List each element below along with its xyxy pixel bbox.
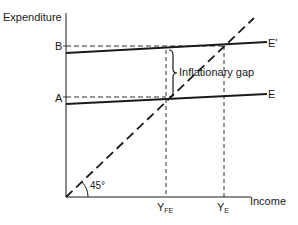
tick-label-a: A bbox=[55, 92, 62, 104]
tick-label-ye: YE bbox=[217, 201, 229, 217]
line-label-e-prime: E' bbox=[268, 37, 277, 49]
tick-label-yfe-sub: FE bbox=[164, 207, 173, 214]
line-label-e: E bbox=[268, 88, 275, 100]
angle-label: 45° bbox=[90, 180, 105, 192]
e-line bbox=[66, 94, 267, 104]
gap-brace-icon bbox=[169, 50, 177, 97]
tick-label-ye-sub: E bbox=[224, 207, 229, 214]
x-axis-label: Income bbox=[250, 195, 286, 207]
diagram-canvas bbox=[0, 0, 298, 225]
tick-label-b: B bbox=[55, 40, 62, 52]
e-prime-line bbox=[66, 42, 267, 53]
tick-label-yfe: YFE bbox=[157, 201, 173, 217]
angle-arc-icon bbox=[82, 182, 88, 197]
y-axis-label: Expenditure bbox=[3, 11, 62, 23]
inflationary-gap-label: Inflationary gap bbox=[179, 66, 254, 78]
